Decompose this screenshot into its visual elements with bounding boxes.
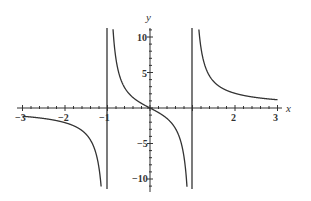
y-tick-label-neg10: −10 (132, 173, 148, 184)
curve-branch (199, 30, 278, 100)
curve-branch (23, 116, 102, 186)
x-tick-label-neg2: −2 (58, 112, 69, 123)
y-tick-label-neg5: −5 (137, 138, 148, 149)
x-tick-label-neg3: −3 (15, 112, 26, 123)
x-tick-label-2: 2 (231, 112, 236, 123)
y-axis-label: y (145, 11, 151, 23)
x-tick-label-neg1: −1 (99, 112, 110, 123)
chart-plot: −3 −2 −1 2 3 x 10 5 −5 −10 y (0, 0, 311, 201)
y-tick-label-10: 10 (137, 32, 147, 43)
x-tick-label-3: 3 (273, 112, 278, 123)
y-tick-label-5: 5 (142, 68, 147, 79)
x-axis-label: x (285, 102, 291, 114)
axes (17, 28, 282, 192)
